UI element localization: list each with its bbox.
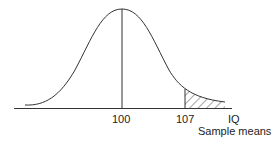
shaded-tail-region — [185, 85, 227, 109]
bell-curve — [25, 9, 225, 105]
cutoff-tick-label: 107 — [176, 114, 194, 125]
x-axis-sublabel: Sample means — [198, 126, 271, 137]
x-axis-label: IQ — [228, 114, 240, 125]
mean-tick-label: 100 — [112, 114, 130, 125]
